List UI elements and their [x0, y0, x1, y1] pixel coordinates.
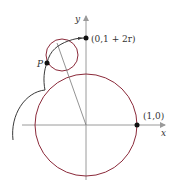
x-axis-label: x	[161, 128, 166, 138]
point-P-label: P	[36, 59, 44, 69]
point-right	[135, 123, 140, 128]
point-top	[84, 36, 89, 41]
y-axis-label: y	[74, 14, 81, 24]
diagram-canvas: y x P (0,1 + 2r) (1,0)	[0, 0, 180, 190]
point-P	[45, 61, 50, 66]
radius-line	[57, 43, 86, 125]
point-top-label: (0,1 + 2r)	[91, 34, 136, 44]
point-right-label: (1,0)	[143, 111, 164, 121]
